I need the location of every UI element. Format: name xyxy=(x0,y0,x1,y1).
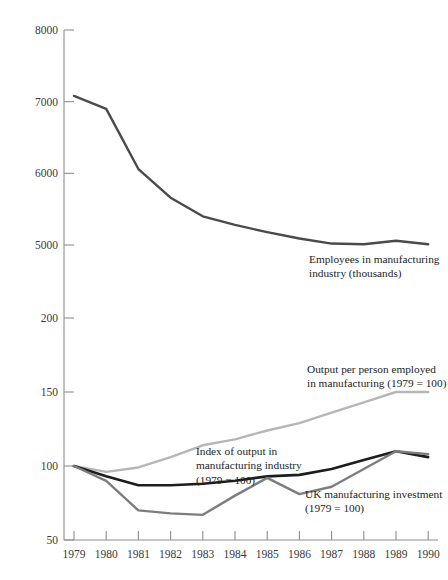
series-line-0 xyxy=(74,96,428,244)
y-axis-tick-labels: 500060007000800050100150200 xyxy=(35,24,58,546)
x-tick-label-1981: 1981 xyxy=(127,548,150,560)
y-tick-label-lower-100: 100 xyxy=(41,460,59,472)
y-tick-label-upper-5000: 5000 xyxy=(35,239,58,251)
annotation-index-of-output: Index of output in manufacturing industr… xyxy=(196,444,302,487)
x-tick-label-1988: 1988 xyxy=(352,548,375,560)
x-tick-label-1980: 1980 xyxy=(95,548,118,560)
y-tick-label-upper-7000: 7000 xyxy=(35,96,58,108)
x-tick-label-1987: 1987 xyxy=(320,548,343,560)
manufacturing-chart: 500060007000800050100150200 197919801981… xyxy=(0,0,448,580)
y-tick-label-lower-150: 150 xyxy=(41,386,59,398)
x-tick-label-1984: 1984 xyxy=(224,548,247,560)
y-tick-label-upper-6000: 6000 xyxy=(35,167,58,179)
x-tick-label-1990: 1990 xyxy=(417,548,440,560)
annotation-employees: Employees in manufacturing industry (tho… xyxy=(309,252,440,281)
x-axis-tick-labels: 1979198019811982198319841985198619871988… xyxy=(63,548,440,560)
y-tick-label-lower-50: 50 xyxy=(47,534,59,546)
annotation-output-per-person: Output per person employed in manufactur… xyxy=(307,362,446,391)
x-tick-label-1982: 1982 xyxy=(159,548,182,560)
x-tick-label-1985: 1985 xyxy=(256,548,279,560)
y-tick-label-lower-200: 200 xyxy=(41,312,59,324)
x-tick-label-1983: 1983 xyxy=(191,548,214,560)
y-tick-label-upper-8000: 8000 xyxy=(35,24,58,36)
annotation-uk-investment: UK manufacturing investment (1979 = 100) xyxy=(305,487,442,516)
x-tick-label-1979: 1979 xyxy=(63,548,86,560)
y-axis-ticks xyxy=(64,30,74,540)
x-tick-label-1986: 1986 xyxy=(288,548,311,560)
x-tick-label-1989: 1989 xyxy=(385,548,408,560)
x-axis-ticks xyxy=(74,531,428,540)
